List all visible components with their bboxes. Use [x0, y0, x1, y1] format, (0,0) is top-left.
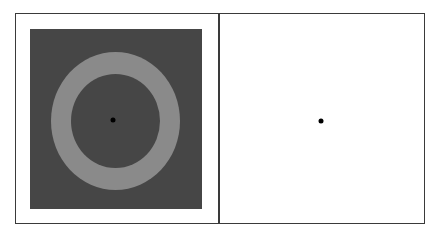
blank-field-graphic — [219, 13, 424, 224]
annulus-stimulus — [30, 29, 202, 209]
fixation-dot-left — [111, 118, 116, 123]
annulus-graphic — [30, 29, 202, 209]
dark-inner-disc — [71, 74, 160, 168]
fixation-dot-right — [319, 119, 324, 124]
right-panel — [219, 13, 424, 224]
